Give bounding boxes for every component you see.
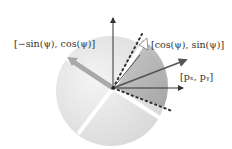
rotation-diagram: [−sin(ψ), cos(ψ)] [cos(ψ), sin(ψ)] [pₓ, … — [0, 0, 232, 149]
perp-vector-label: [−sin(ψ), cos(ψ)] — [14, 38, 95, 49]
p-vector-label: [pₓ, pᵧ] — [180, 71, 213, 82]
origin-point — [111, 86, 115, 90]
dir-vector-label: [cos(ψ), sin(ψ)] — [151, 39, 224, 50]
